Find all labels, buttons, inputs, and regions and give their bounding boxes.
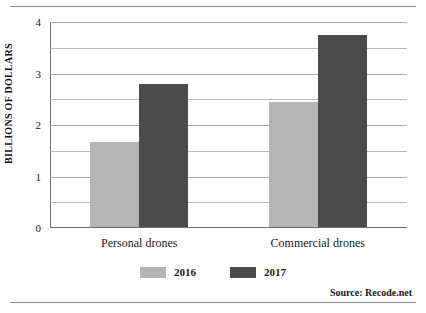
y-tick-label: 1 <box>36 171 42 182</box>
bottom-rule <box>10 302 416 303</box>
plot-area: 01234 <box>50 22 407 228</box>
legend-swatch-2017 <box>230 267 256 278</box>
category-label: Commercial drones <box>271 236 365 251</box>
top-rule <box>10 6 416 7</box>
legend-item-2017[interactable]: 2017 <box>230 266 286 278</box>
y-axis-title: BILLIONS OF DOLLARS <box>0 0 18 206</box>
bar-2017-personal-drones[interactable] <box>139 84 188 227</box>
legend-label: 2017 <box>264 266 286 278</box>
bar-2016-commercial-drones[interactable] <box>269 102 318 227</box>
x-axis-line <box>50 227 407 228</box>
category-label: Personal drones <box>101 236 177 251</box>
chart-figure: BILLIONS OF DOLLARS 01234 20162017 Sourc… <box>0 0 426 313</box>
source-note: Source: Recode.net <box>330 287 412 298</box>
gridline-major <box>50 22 407 23</box>
y-axis-title-text: BILLIONS OF DOLLARS <box>3 43 14 164</box>
y-tick-label: 0 <box>36 223 42 234</box>
legend-label: 2016 <box>174 266 196 278</box>
y-tick-label: 3 <box>36 68 42 79</box>
chart-legend: 20162017 <box>0 266 426 278</box>
bar-2016-personal-drones[interactable] <box>90 142 139 227</box>
y-tick-label: 4 <box>36 17 42 28</box>
legend-swatch-2016 <box>140 267 166 278</box>
legend-item-2016[interactable]: 2016 <box>140 266 196 278</box>
y-tick-label: 2 <box>36 120 42 131</box>
bar-2017-commercial-drones[interactable] <box>318 35 367 227</box>
